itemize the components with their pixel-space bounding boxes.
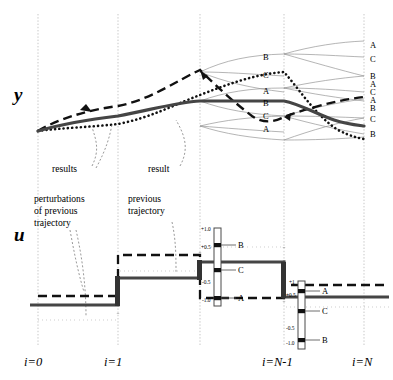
ruler-left [214, 228, 236, 306]
ruler-right-tick: -0.5 [286, 325, 295, 331]
ruler-left-marker-B [214, 243, 221, 247]
annotation-perturbations-line3: trajectory [34, 217, 71, 228]
fan-branch [284, 137, 364, 140]
annotation-result: result [148, 163, 169, 174]
scenario-fan-upper [200, 41, 364, 140]
arrowhead [284, 113, 291, 121]
fan-branch [200, 126, 284, 140]
node-label-right: B [370, 103, 376, 113]
node-label-mid: B [263, 52, 269, 62]
u-axis-label: u [14, 224, 25, 246]
ruler-left-tick: -0.5 [202, 279, 211, 285]
ruler-right-marker-C [298, 309, 305, 313]
leader-prev-traj [172, 222, 176, 272]
arrowhead [80, 104, 92, 112]
ruler-left-marker-A [214, 296, 221, 300]
fan-branch [284, 76, 364, 88]
node-label-right: C [370, 114, 376, 124]
annotation-previous-line2: trajectory [128, 205, 165, 216]
ruler-right-marker-A [298, 289, 305, 293]
ruler-left-tick: +1.0 [201, 226, 211, 232]
ruler-left-tick: -1.0 [202, 297, 211, 303]
ruler-left-tick: +0.5 [201, 244, 211, 250]
leader-perturb-2 [76, 230, 86, 316]
fan-branch [200, 126, 284, 132]
fan-branch [284, 54, 364, 76]
node-label-mid: C [263, 70, 269, 80]
ruler-left-marker-label: C [238, 265, 244, 275]
ruler-right-tick: -1.0 [286, 340, 295, 346]
xtick-iN: i=N [352, 355, 372, 370]
xtick-i0: i=0 [24, 355, 42, 370]
edge-mark [197, 260, 202, 280]
ruler-right-tick: +1 [289, 279, 295, 285]
xtick-iN1: i=N-1 [262, 355, 293, 370]
diagram-svg [0, 0, 393, 380]
node-label-mid: C [263, 111, 269, 121]
y-axis-label: y [14, 84, 22, 106]
node-label-mid: A [263, 86, 269, 96]
ruler-right-tick: +0.5 [286, 292, 296, 298]
annotation-leaders [70, 120, 185, 316]
fan-branch [284, 88, 364, 101]
figure-canvas: y u B C A B C A A C B A C A B C B result… [0, 0, 393, 380]
fan-branch [284, 118, 364, 140]
fan-branch [284, 41, 364, 54]
ruler-right [298, 281, 320, 349]
ruler-right-marker-B [298, 338, 305, 342]
annotation-results: results [52, 163, 77, 174]
annotation-perturbations-line2: of previous [34, 205, 77, 216]
node-label-right: B [370, 129, 376, 139]
node-label-mid: A [263, 124, 269, 134]
arrowhead [200, 70, 208, 80]
ruler-left-marker-label: B [238, 240, 244, 250]
leader-results-1 [92, 127, 97, 166]
ruler-left-marker-C [214, 268, 221, 272]
xtick-i1: i=1 [104, 355, 122, 370]
ruler-right-marker-label: C [322, 306, 328, 316]
node-label-right: C [370, 54, 376, 64]
node-label-mid: B [263, 98, 269, 108]
leader-perturb-1 [70, 230, 84, 292]
annotation-perturbations-line1: perturbations [34, 193, 85, 204]
fan-branch [284, 99, 364, 116]
ruler-left-body [214, 228, 221, 306]
fan-branch [200, 54, 284, 72]
fan-branch [200, 116, 284, 126]
ruler-right-marker-label: B [322, 335, 328, 345]
leader-results-2 [96, 124, 112, 168]
ruler-left-marker-label: A [238, 293, 244, 303]
ruler-right-marker-label: A [322, 286, 328, 296]
edge-mark [115, 276, 120, 306]
node-label-right: A [370, 40, 376, 50]
fan-branch [284, 54, 364, 57]
leader-result [176, 120, 185, 166]
annotation-previous-line1: previous [128, 193, 161, 204]
